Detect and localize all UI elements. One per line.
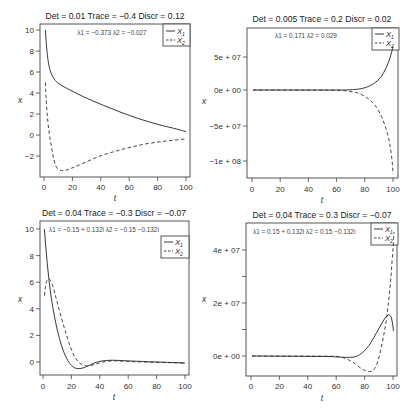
panel-top-right: Det = 0.005 Trace = 0.2 Discr = 0.02 λ1 … [201,14,400,205]
svg-text:2: 2 [30,110,35,119]
y-axis: 5e + 07 0e + 00 −5e + 07 −1e + 08 x [201,53,247,166]
panel-title: Det = 0.04 Trace = −0.3 Discr = −0.07 [42,208,186,218]
eigenvalue-label: λ1 = −0.15 + 0.132i λ2 = −0.15 −0.132i [49,226,159,233]
x-axis: 0 20 40 60 80 100 t [41,375,192,402]
y-axis-label: x [17,294,23,304]
svg-text:20: 20 [67,382,76,391]
svg-text:20: 20 [68,183,77,192]
svg-text:4e + 07: 4e + 07 [213,246,240,255]
svg-text:5e + 07: 5e + 07 [214,53,241,62]
svg-text:0: 0 [250,185,255,194]
y-axis: 10 8 6 4 2 0 x [17,225,40,367]
panel-title: Det = 0.01 Trace = −0.4 Discr = 0.12 [45,11,184,21]
svg-text:8: 8 [30,252,35,261]
svg-text:40: 40 [304,185,313,194]
panel-bottom-right: Det = 0.04 Trace = 0.3 Discr = −0.07 λ1 … [201,210,400,403]
x-axis: 0 20 40 60 80 100 t [250,178,400,205]
eigenvalue-label: λ1 = 0.171 λ2 = 0.029 [275,32,337,39]
series-x1-line [253,46,393,90]
panel-title: Det = 0.005 Trace = 0.2 Discr = 0.02 [253,14,392,24]
eigenvalue-label: λ1 = −0.373 λ2 = −0.027 [77,29,147,36]
legend: X1 X2 [161,236,189,258]
svg-text:0: 0 [249,382,254,391]
eigenvalue-label: λ1 = 0.15 + 0.132i λ2 = 0.15 −0.132i [253,228,355,235]
svg-text:20: 20 [275,382,284,391]
y-axis: 10 8 6 4 2 0 −2 x [17,26,40,161]
svg-text:40: 40 [96,183,105,192]
svg-text:10: 10 [25,26,34,35]
svg-text:80: 80 [152,382,161,391]
svg-text:60: 60 [124,382,133,391]
svg-text:10: 10 [25,225,34,234]
svg-text:6: 6 [30,278,35,287]
series-x2-line [253,90,393,174]
figure: Det = 0.01 Trace = −0.4 Discr = 0.12 λ1 … [0,0,412,414]
svg-text:4: 4 [30,89,35,98]
svg-text:60: 60 [125,183,134,192]
svg-text:60: 60 [332,382,341,391]
svg-text:8: 8 [30,47,35,56]
panel-top-left: Det = 0.01 Trace = −0.4 Discr = 0.12 λ1 … [17,11,193,203]
svg-text:0e + 00: 0e + 00 [214,86,241,95]
panel-title: Det = 0.04 Trace = 0.3 Discr = −0.07 [252,210,391,220]
svg-text:100: 100 [386,382,400,391]
svg-text:4: 4 [30,305,35,314]
x-axis-label: t [113,392,116,402]
svg-text:80: 80 [360,382,369,391]
svg-text:2e + 07: 2e + 07 [213,299,240,308]
series-x2-line [44,279,185,366]
y-axis-label: x [201,294,207,304]
svg-text:2: 2 [30,331,35,340]
svg-text:20: 20 [276,185,285,194]
svg-text:40: 40 [95,382,104,391]
svg-text:−2: −2 [25,152,35,161]
svg-text:−1e + 08: −1e + 08 [209,157,241,166]
svg-text:0e + 00: 0e + 00 [213,352,240,361]
plot-frame [40,24,190,177]
y-axis-label: x [201,96,207,106]
series-x1-line [252,315,394,357]
legend: X1 X2 [371,223,398,245]
plot-frame [246,223,397,376]
svg-text:0: 0 [41,382,46,391]
svg-text:6: 6 [30,68,35,77]
svg-text:100: 100 [178,382,192,391]
x-axis: 0 20 40 60 80 100 t [249,376,400,403]
y-axis-label: x [17,95,23,105]
x-axis-label: t [114,193,117,203]
series-x2-line [252,232,394,372]
svg-text:60: 60 [332,185,341,194]
svg-text:40: 40 [303,382,312,391]
svg-text:0: 0 [42,183,47,192]
svg-text:−5e + 07: −5e + 07 [209,122,241,131]
svg-text:100: 100 [179,183,193,192]
x-axis: 0 20 40 60 80 100 t [42,177,193,203]
x-axis-label: t [321,393,324,403]
plot-frame [247,28,398,178]
svg-text:80: 80 [360,185,369,194]
x-axis-label: t [321,195,324,205]
svg-text:0: 0 [30,131,35,140]
svg-text:0: 0 [30,358,35,367]
y-axis: 4e + 07 2e + 07 0e + 00 x [201,246,246,361]
svg-text:100: 100 [386,185,400,194]
legend: X1 X2 [163,24,190,46]
legend: X1 X2 [372,28,399,50]
svg-text:80: 80 [153,183,162,192]
panel-bottom-left: Det = 0.04 Trace = −0.3 Discr = −0.07 λ1… [17,208,192,402]
